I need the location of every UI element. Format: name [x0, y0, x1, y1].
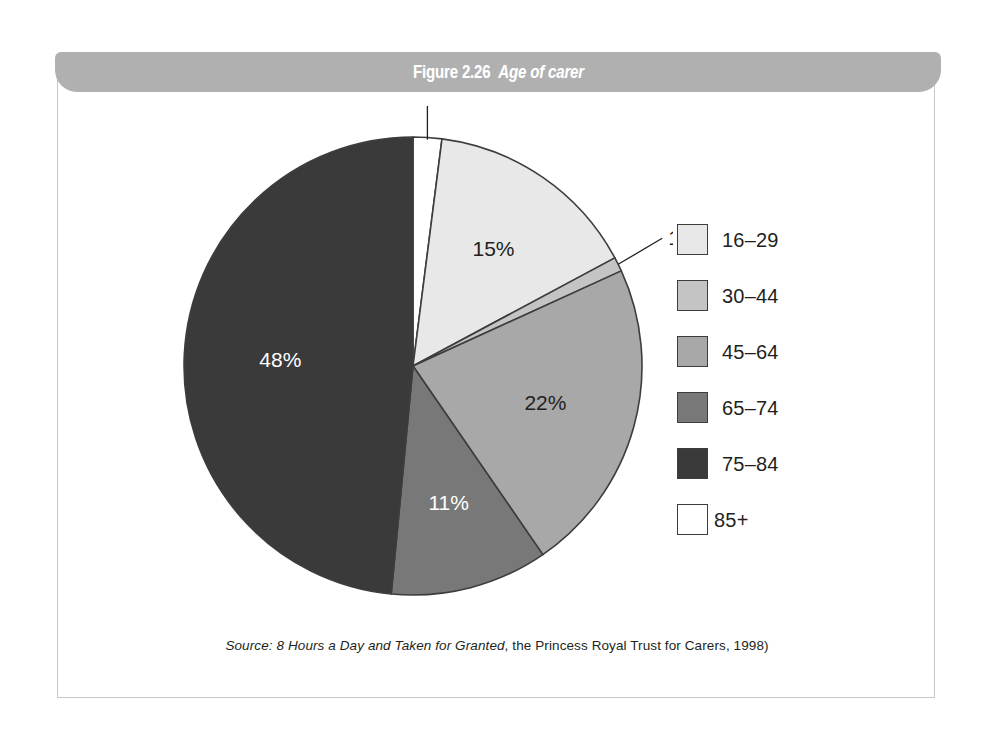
legend-swatch-30-44 [677, 280, 708, 311]
pie-chart: 15%22%11%48%2%1% [153, 106, 673, 626]
figure-title-name: Age of carer [498, 62, 584, 82]
figure-title-number: Figure 2.26 [412, 62, 490, 82]
legend-label-30-44: 30–44 [722, 286, 779, 306]
figure-title-bar: Figure 2.26Age of carer [55, 52, 941, 92]
legend-label-45-64: 45–64 [722, 342, 779, 362]
figure-title: Figure 2.26Age of carer [412, 62, 583, 83]
pie-slices [184, 137, 642, 595]
legend-item-85-plus[interactable]: 85+ [677, 504, 867, 535]
legend-swatch-45-64 [677, 336, 708, 367]
legend-swatch-85-plus [677, 504, 708, 535]
legend-item-65-74[interactable]: 65–74 [677, 392, 867, 423]
legend-item-45-64[interactable]: 45–64 [677, 336, 867, 367]
chart-area: 15%22%11%48%2%1% 16–29 30–44 45–64 65–74 [58, 76, 936, 699]
pie-label-15pct: 15% [472, 237, 514, 260]
source-prefix: Source: [225, 638, 272, 653]
pie-label-11pct: 11% [428, 491, 468, 514]
legend-label-85-plus: 85+ [714, 510, 749, 530]
pie-label-48pct: 48% [259, 348, 301, 371]
legend-item-30-44[interactable]: 30–44 [677, 280, 867, 311]
source-caption: Source: 8 Hours a Day and Taken for Gran… [58, 638, 936, 653]
legend-label-16-29: 16–29 [722, 230, 779, 250]
leader-line-1pct [618, 238, 662, 264]
legend-swatch-16-29 [677, 224, 708, 255]
legend-label-65-74: 65–74 [722, 398, 779, 418]
legend-swatch-75-84 [677, 448, 708, 479]
source-rest: , the Princess Royal Trust for Carers, 1… [505, 638, 769, 653]
legend-item-16-29[interactable]: 16–29 [677, 224, 867, 255]
source-title: 8 Hours a Day and Taken for Granted [276, 638, 504, 653]
legend-swatch-65-74 [677, 392, 708, 423]
legend-label-75-84: 75–84 [722, 454, 779, 474]
chart-legend: 16–29 30–44 45–64 65–74 75–84 85+ [677, 224, 867, 535]
pie-label-22pct: 22% [524, 391, 566, 414]
figure-frame: 15%22%11%48%2%1% 16–29 30–44 45–64 65–74 [57, 75, 935, 698]
pie-label-1pct: 1% [668, 226, 673, 249]
legend-item-75-84[interactable]: 75–84 [677, 448, 867, 479]
